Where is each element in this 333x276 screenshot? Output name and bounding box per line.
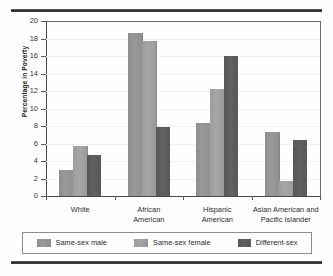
y-tick-label: 18 <box>4 35 38 43</box>
bar <box>156 127 170 196</box>
x-tick <box>115 196 116 200</box>
bar-group <box>265 21 307 196</box>
bar <box>210 89 225 196</box>
bar-group <box>196 21 238 196</box>
bar-group <box>128 21 170 196</box>
bar <box>73 146 88 196</box>
bar <box>196 123 211 196</box>
bars-area <box>46 21 320 196</box>
bar <box>224 56 238 196</box>
y-tick-label: 10 <box>4 105 38 113</box>
y-tick-label: 0 <box>4 192 38 200</box>
y-tick-label: 6 <box>4 140 38 148</box>
chart-page: Percentage in Poverty 20181614121086420 … <box>0 0 333 276</box>
x-tick <box>46 196 47 200</box>
x-tick-label: Asian American andPacific Islander <box>246 205 327 225</box>
legend-label: Same-sex male <box>56 239 107 246</box>
y-axis-title: Percentage in Poverty <box>21 27 28 137</box>
chart-legend: Same-sex male Same-sex female Different-… <box>22 232 312 254</box>
bar <box>142 41 157 196</box>
bar-group <box>59 21 101 196</box>
x-axis-labels: WhiteAfricanAmericanHispanicAmericanAsia… <box>46 201 320 229</box>
x-tick <box>252 196 253 200</box>
legend-label: Same-sex female <box>153 239 211 246</box>
legend-label: Different-sex <box>256 239 298 246</box>
top-rule <box>11 9 322 12</box>
legend-item: Different-sex <box>238 239 298 247</box>
bar <box>128 33 143 196</box>
y-tick-label: 4 <box>4 157 38 165</box>
legend-swatch-same-sex-female <box>134 239 148 247</box>
bar <box>265 132 280 196</box>
x-tick <box>320 196 321 200</box>
legend-swatch-different-sex <box>238 239 251 247</box>
legend-item: Same-sex male <box>37 239 107 247</box>
y-tick-label: 12 <box>4 87 38 95</box>
x-tick <box>183 196 184 200</box>
legend-item: Same-sex female <box>134 239 211 247</box>
y-tick-label: 8 <box>4 122 38 130</box>
legend-swatch-same-sex-male <box>37 239 51 247</box>
bar <box>293 140 307 196</box>
y-tick-label: 14 <box>4 70 38 78</box>
bar <box>279 181 294 196</box>
y-tick-label: 2 <box>4 175 38 183</box>
y-tick-label: 16 <box>4 52 38 60</box>
bar <box>59 170 74 196</box>
y-tick-label: 20 <box>4 17 38 25</box>
bar <box>87 155 101 196</box>
bottom-rule <box>11 261 322 264</box>
